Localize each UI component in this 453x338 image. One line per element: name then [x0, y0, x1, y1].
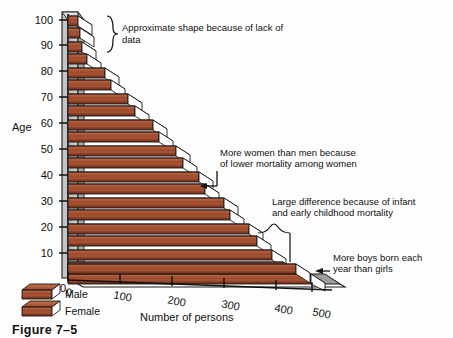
- figure-container: 100 90 80 70 60 50 40 30 20 10 0 Age: [0, 0, 453, 338]
- annotation-more-women-line2: of lower mortality among women: [220, 158, 357, 169]
- y-tick-label-60: 60: [41, 117, 53, 129]
- annotation-large-difference-line1: Large difference because of infant: [272, 196, 416, 207]
- figure-caption: Figure 7–5: [12, 323, 78, 337]
- population-pyramid-chart: 100 90 80 70 60 50 40 30 20 10 0 Age: [0, 0, 453, 338]
- annotation-approx-shape-line1: Approximate shape because of lack of: [122, 22, 283, 33]
- x-axis-title: Number of persons: [140, 311, 234, 323]
- annotation-more-boys-line2: year than girls: [333, 263, 393, 274]
- annotation-more-women-line1: More women than men because: [220, 147, 356, 158]
- y-tick-label-20: 20: [41, 221, 53, 233]
- y-tick-label-70: 70: [41, 91, 53, 103]
- y-tick-label-10: 10: [41, 247, 53, 259]
- y-tick-label-50: 50: [41, 143, 53, 155]
- annotation-approx-shape-line2: data: [122, 34, 141, 45]
- y-axis-title: Age: [12, 121, 32, 133]
- legend-swatch-male: [22, 284, 60, 299]
- y-tick-label-80: 80: [41, 65, 53, 77]
- annotation-large-difference-line2: and early childhood mortality: [272, 207, 393, 218]
- legend-label-female: Female: [65, 305, 100, 317]
- legend-swatch-female: [22, 301, 60, 316]
- y-tick-label-100: 100: [35, 14, 53, 26]
- y-tick-label-40: 40: [41, 169, 53, 181]
- annotation-more-boys-line1: More boys born each: [333, 252, 422, 263]
- legend-label-male: Male: [65, 288, 88, 300]
- y-tick-label-30: 30: [41, 195, 53, 207]
- y-tick-label-90: 90: [41, 39, 53, 51]
